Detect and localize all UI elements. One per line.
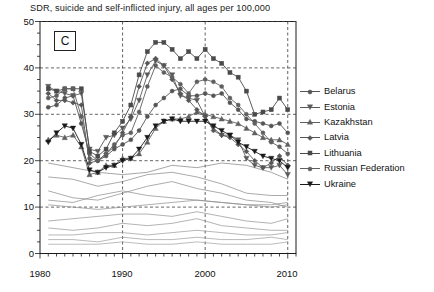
x-tick-label-2000: 2000 [183, 268, 227, 279]
data-point-marker [269, 140, 273, 144]
data-point-marker [307, 105, 312, 110]
x-tick-label-2010: 2010 [265, 268, 309, 279]
data-point-marker [129, 103, 133, 107]
data-point-marker [162, 71, 166, 75]
data-point-marker [63, 87, 67, 91]
data-point-marker [236, 108, 240, 112]
data-point-marker [170, 47, 174, 51]
data-point-marker [220, 61, 224, 65]
legend-marker-glyph [304, 163, 316, 175]
data-point-marker [286, 108, 290, 112]
data-point-marker [244, 112, 248, 116]
data-point-marker [195, 80, 199, 84]
legend-marker-icon [300, 163, 320, 175]
data-point-marker [145, 84, 149, 88]
data-point-marker [261, 131, 265, 135]
data-point-marker [154, 103, 158, 107]
chart-figure: SDR, suicide and self-inflicted injury, … [0, 0, 434, 292]
legend-marker-icon [300, 178, 320, 190]
chart-legend: BelarusEstoniaKazakhstanLatviaLithuaniaR… [300, 84, 434, 192]
data-point-marker [269, 108, 273, 112]
legend-marker-icon [300, 116, 320, 128]
x-tick-label-1990: 1990 [100, 268, 144, 279]
data-point-marker [286, 131, 290, 135]
data-point-marker [253, 122, 257, 126]
data-point-marker [261, 122, 265, 126]
legend-item-estonia[interactable]: Estonia [300, 99, 434, 114]
data-point-marker [195, 57, 199, 61]
data-point-marker [228, 96, 232, 100]
data-point-marker [220, 84, 224, 88]
legend-marker-icon [300, 101, 320, 113]
legend-item-kazakhstan[interactable]: Kazakhstan [300, 115, 434, 130]
data-point-marker [154, 40, 158, 44]
data-point-marker [55, 103, 59, 107]
data-point-marker [253, 112, 257, 116]
data-point-marker [129, 138, 133, 142]
data-point-marker [129, 131, 133, 135]
legend-label: Kazakhstan [324, 117, 373, 128]
data-point-marker [228, 101, 232, 105]
data-point-marker [137, 73, 141, 77]
data-point-marker [195, 94, 199, 98]
data-point-marker [88, 156, 92, 160]
data-point-marker [261, 110, 265, 114]
legend-item-russian-federation[interactable]: Russian Federation [300, 161, 434, 176]
legend-label: Latvia [324, 132, 349, 143]
data-point-marker [96, 159, 100, 163]
data-point-marker [79, 115, 83, 119]
data-point-marker [162, 40, 166, 44]
data-point-marker [203, 47, 207, 51]
legend-item-ukraine[interactable]: Ukraine [300, 176, 434, 191]
legend-marker-icon [300, 132, 320, 144]
plot-frame [40, 22, 296, 254]
y-tick-label-20: 20 [8, 155, 34, 166]
data-point-marker [178, 82, 182, 86]
legend-label: Ukraine [324, 179, 356, 190]
data-point-marker [79, 87, 83, 91]
data-point-marker [96, 154, 100, 158]
legend-marker-glyph [304, 132, 316, 144]
data-point-marker [187, 50, 191, 54]
legend-label: Lithuania [324, 148, 362, 159]
data-point-marker [308, 135, 313, 140]
data-point-marker [71, 87, 75, 91]
data-point-marker [244, 89, 248, 93]
legend-marker-glyph [304, 101, 316, 113]
legend-item-belarus[interactable]: Belarus [300, 84, 434, 99]
data-point-marker [211, 94, 215, 98]
data-point-marker [178, 57, 182, 61]
legend-label: Belarus [324, 86, 356, 97]
legend-marker-icon [300, 147, 320, 159]
data-point-marker [203, 78, 207, 82]
legend-item-latvia[interactable]: Latvia [300, 130, 434, 145]
y-tick-label-40: 40 [8, 62, 34, 73]
legend-marker-glyph [304, 147, 316, 159]
legend-marker-glyph [304, 116, 316, 128]
chart-title: SDR, suicide and self-inflicted injury, … [30, 3, 270, 13]
panel-label: C [54, 31, 76, 51]
data-point-marker [308, 151, 312, 155]
legend-item-lithuania[interactable]: Lithuania [300, 146, 434, 161]
data-point-marker [277, 145, 281, 149]
data-point-marker [220, 91, 224, 95]
legend-label: Russian Federation [324, 163, 405, 174]
legend-label: Estonia [324, 102, 355, 113]
data-point-marker [203, 91, 207, 95]
data-point-marker [137, 129, 141, 133]
data-point-marker [170, 75, 174, 79]
legend-marker-icon [300, 86, 320, 98]
data-point-marker [286, 152, 290, 156]
x-tick-label-1980: 1980 [18, 268, 62, 279]
data-point-marker [277, 96, 281, 100]
y-tick-label-30: 30 [8, 108, 34, 119]
data-point-marker [308, 167, 312, 171]
data-point-marker [211, 57, 215, 61]
data-point-marker [121, 133, 125, 137]
y-tick-label-10: 10 [8, 201, 34, 212]
data-point-marker [170, 89, 174, 93]
data-point-marker [112, 131, 116, 135]
data-point-marker [137, 110, 141, 114]
y-tick-label-0: 0 [8, 248, 34, 259]
data-point-marker [211, 80, 215, 84]
